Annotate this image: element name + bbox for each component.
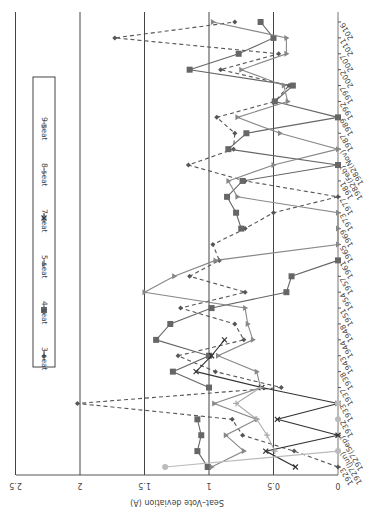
- legend-item-3-seat: 3-seat: [40, 347, 49, 371]
- legend-item-4-seat: 4-seat: [40, 301, 49, 325]
- svg-text:4-seat: 4-seat: [40, 301, 49, 325]
- series-3-seat: [75, 20, 341, 470]
- y-tick-label: 1.5: [138, 481, 151, 490]
- y-tick-label: 2: [77, 481, 82, 490]
- x-axis-categories: 19231927(Jun)1927(Sep)193219331937193819…: [338, 21, 366, 487]
- chart-canvas: 00.511.522.519231927(Jun)1927(Sep)193219…: [0, 0, 384, 524]
- series-4-seat: [153, 19, 341, 470]
- y-tick-label: 1: [206, 481, 211, 490]
- svg-text:8-seat: 8-seat: [40, 163, 49, 187]
- category-label: 2016: [338, 21, 355, 42]
- series-9-seat: [162, 400, 341, 470]
- legend-item-8-seat: 8-seat: [40, 163, 49, 187]
- legend-item-5-seat: 5-seat: [40, 255, 49, 279]
- y-tick-label: 0: [335, 481, 340, 490]
- y-tick-label: 2.5: [9, 481, 22, 490]
- legend-item-7-seat: 7-seat: [40, 209, 49, 233]
- y-axis-label: Seat–Vote deviation (A): [130, 498, 224, 507]
- y-tick-label: 0.5: [267, 481, 280, 490]
- svg-text:7-seat: 7-seat: [40, 209, 49, 233]
- seat-vote-deviation-chart: 00.511.522.519231927(Jun)1927(Sep)193219…: [0, 0, 384, 524]
- legend-item-9-seat: 9-seat: [40, 117, 49, 141]
- svg-text:3-seat: 3-seat: [40, 347, 49, 371]
- legend: 3-seat4-seat5-seat7-seat8-seat9-seat: [33, 77, 55, 371]
- svg-text:5-seat: 5-seat: [40, 255, 49, 279]
- svg-text:9-seat: 9-seat: [40, 117, 49, 141]
- series-5-seat: [143, 19, 342, 470]
